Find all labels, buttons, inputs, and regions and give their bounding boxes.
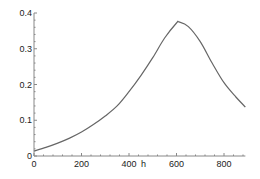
x-axis-label: h <box>141 159 146 169</box>
y-tick-label: 0 <box>27 151 32 161</box>
axes <box>34 13 245 156</box>
tick-labels: 020040060080000.10.20.30.4 <box>19 8 231 169</box>
y-tick-label: 0.4 <box>19 8 32 18</box>
y-tick-label: 0.3 <box>19 44 32 54</box>
y-tick-label: 0.2 <box>19 80 32 90</box>
x-tick-label: 0 <box>31 159 36 169</box>
y-tick-label: 0.1 <box>19 115 32 125</box>
x-tick-label: 800 <box>216 159 231 169</box>
x-tick-label: 200 <box>74 159 89 169</box>
data-line <box>34 21 245 151</box>
line-chart: 020040060080000.10.20.30.4 h <box>0 0 260 179</box>
x-tick-label: 400 <box>121 159 136 169</box>
x-tick-label: 600 <box>169 159 184 169</box>
